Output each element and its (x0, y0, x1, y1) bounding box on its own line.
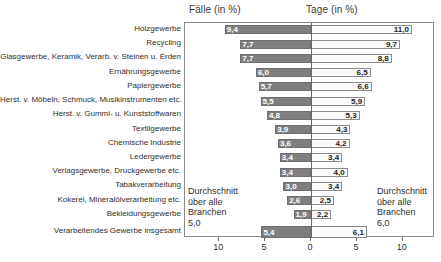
bar-value-tage: 3,4 (308, 153, 339, 162)
average-right-value: 6,0 (377, 218, 427, 229)
bar-value-tage: 8,8 (358, 54, 389, 63)
axis-tick-label: 10 (205, 242, 231, 252)
category-label: Holzgewerbe (0, 24, 181, 33)
bar-value-tage: 5,9 (331, 97, 362, 106)
category-label: Recycling (0, 38, 181, 47)
category-label: Tabakverarbeitung (0, 180, 181, 189)
axis-tick (218, 237, 219, 241)
axis-tick (310, 237, 311, 241)
axis-tick-label: 5 (251, 242, 277, 252)
category-label: Ledergewerbe (0, 152, 181, 161)
x-axis: 1050510 (184, 237, 434, 259)
bar-value-faelle: 5,5 (263, 97, 274, 106)
axis-tick (356, 237, 357, 241)
category-label: Kokerei, Mineralölverarbeitung etc. (0, 195, 181, 204)
bar-value-faelle: 6,0 (258, 68, 269, 77)
bar-value-faelle: 5,4 (263, 228, 274, 237)
bar-value-tage: 4,0 (314, 168, 345, 177)
axis-tick-label: 5 (343, 242, 369, 252)
average-left-line1: Durchschnitt (188, 186, 238, 197)
bar-value-tage: 6,5 (337, 68, 368, 77)
average-note-left: Durchschnitt über alle Branchen 5,0 (188, 186, 238, 228)
bar-value-tage: 5,3 (326, 111, 357, 120)
category-label: Papiergewerbe (0, 81, 181, 90)
average-right-line1: Durchschnitt (377, 186, 427, 197)
bar-value-tage: 9,7 (366, 40, 397, 49)
axis-tick (264, 237, 265, 241)
bar-value-tage: 3,4 (308, 182, 339, 191)
category-label: Textilgewerbe (0, 124, 181, 133)
bar-value-tage: 6,1 (333, 228, 364, 237)
category-label: Bekleidungsgewerbe (0, 209, 181, 218)
category-label: Herst. v. Gummi- u. Kunststoffwaren (0, 109, 181, 118)
average-right-line3: Branchen (377, 207, 427, 218)
column-header-faelle: Fälle (in %) (189, 4, 241, 15)
bar-value-faelle: 2,6 (289, 196, 300, 205)
bar-value-faelle: 3,4 (282, 168, 293, 177)
zero-axis-line (311, 23, 312, 238)
bar-value-tage: 2,5 (300, 196, 331, 205)
average-left-value: 5,0 (188, 218, 238, 229)
category-label: Herst. v. Möbeln, Schmuck, Musikinstrume… (0, 95, 181, 104)
bar-value-faelle: 3,4 (282, 153, 293, 162)
average-right-line2: über alle (377, 197, 427, 208)
average-left-line3: Branchen (188, 207, 238, 218)
bar-value-faelle: 3,6 (280, 139, 291, 148)
category-label-column: HolzgewerbeRecyclingGlasgewerbe, Keramik… (0, 22, 181, 237)
axis-tick-label: 10 (389, 242, 415, 252)
category-label: Chemische Industrie (0, 138, 181, 147)
bar-value-tage: 4,3 (316, 125, 347, 134)
average-left-line2: über alle (188, 197, 238, 208)
bar-value-faelle: 7,7 (242, 40, 253, 49)
chart-page: Fälle (in %) Tage (in %) HolzgewerbeRecy… (0, 0, 441, 262)
axis-tick-label: 0 (297, 242, 323, 252)
column-header-tage: Tage (in %) (306, 4, 358, 15)
bar-value-faelle: 3,9 (277, 125, 288, 134)
bar-value-tage: 6,6 (338, 82, 369, 91)
category-label: Verlagsgewerbe, Druckgewerbe etc. (0, 166, 181, 175)
bar-value-tage: 11,0 (378, 25, 409, 34)
bar-value-tage: 2,2 (297, 210, 328, 219)
bar-value-faelle: 4,8 (269, 111, 280, 120)
bar-value-faelle: 7,7 (242, 54, 253, 63)
category-label: Verarbeitendes Gewerbe insgesamt (0, 226, 181, 235)
bar-value-tage: 4,2 (316, 139, 347, 148)
bar-value-faelle: 3,0 (285, 182, 296, 191)
axis-tick (402, 237, 403, 241)
bar-value-faelle: 9,4 (227, 25, 238, 34)
category-label: Ernährungsgewerbe (0, 67, 181, 76)
bar-value-faelle: 5,7 (261, 82, 272, 91)
category-label: Glasgewerbe, Keramik, Verarb. v. Steinen… (0, 52, 181, 61)
average-note-right: Durchschnitt über alle Branchen 6,0 (377, 186, 427, 228)
